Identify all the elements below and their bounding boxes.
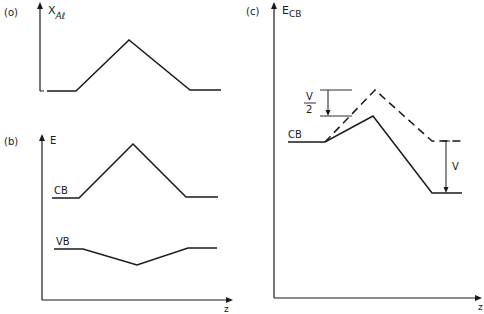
biased-conduction-band-line — [288, 116, 462, 193]
v-arrow-icon — [444, 187, 449, 193]
panel-a-tag: (o) — [4, 7, 18, 18]
valence-band-line — [54, 248, 217, 265]
composition-profile-line — [47, 40, 221, 91]
panel-c-ylabel: ECB — [282, 4, 301, 19]
panel-c-xlabel: z — [478, 302, 483, 312]
panel-c-x-arrow-icon — [475, 295, 482, 301]
panel-a: (o) XAℓ — [4, 2, 221, 91]
conduction-band-line — [52, 144, 218, 198]
panel-c-y-arrow-icon — [271, 2, 277, 9]
panel-b-tag: (b) — [4, 136, 18, 147]
cb-label: CB — [54, 185, 68, 196]
band-diagram-figure: (o) XAℓ (b) E z CB VB (c) ECB z CB — [0, 0, 484, 314]
half-v-denominator: 2 — [306, 104, 312, 115]
panel-c-tag: (c) — [246, 6, 259, 17]
panel-a-y-arrow-icon — [37, 2, 43, 9]
half-v-arrow-icon — [326, 110, 331, 116]
panel-b-y-arrow-icon — [39, 134, 45, 141]
panel-b-x-arrow-icon — [226, 297, 233, 303]
panel-c: (c) ECB z CB V 2 V — [246, 2, 483, 312]
half-v-numerator: V — [306, 91, 313, 102]
panel-b: (b) E z CB VB — [4, 134, 233, 314]
v-label: V — [452, 161, 459, 172]
panel-b-xlabel: z — [224, 304, 229, 314]
vb-label: VB — [56, 236, 70, 247]
panel-a-ylabel: XAℓ — [48, 4, 65, 21]
panel-c-cb-label: CB — [288, 129, 302, 140]
panel-b-ylabel: E — [50, 135, 56, 146]
